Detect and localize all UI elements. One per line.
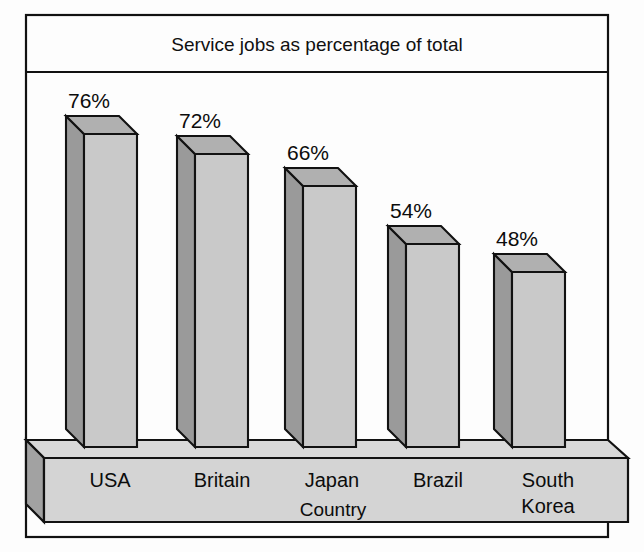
category-label-japan: Japan [305,469,360,491]
category-label-britain: Britain [194,469,251,491]
bar-brazil: 54% [388,199,459,447]
bar-brazil-side [388,226,406,447]
bar-britain-front [195,154,248,447]
service-jobs-bar-chart: Service jobs as percentage of total 76% … [0,0,644,552]
bar-japan-value: 66% [287,141,329,164]
bar-britain-side [177,136,195,447]
chart-title: Service jobs as percentage of total [171,34,463,55]
bar-south-korea-side [494,254,512,447]
bar-britain-value: 72% [179,109,221,132]
bar-britain: 72% [177,109,248,447]
category-label-south-korea: South [522,469,574,491]
x-axis-label: Country [300,499,367,520]
bar-usa: 76% [66,89,137,447]
bar-japan-front [303,186,356,447]
bar-south-korea: 48% [494,227,565,447]
category-label-south-korea-line2: Korea [521,495,575,517]
bar-usa-value: 76% [68,89,110,112]
bar-japan-side [285,168,303,447]
bar-usa-side [66,116,84,447]
bar-brazil-front [406,244,459,447]
chart-page: Service jobs as percentage of total 76% … [0,0,644,552]
bar-usa-front [84,134,137,447]
category-label-usa: USA [89,469,131,491]
bar-japan: 66% [285,141,356,447]
bar-south-korea-value: 48% [496,227,538,250]
category-label-brazil: Brazil [413,469,463,491]
bar-south-korea-front [512,272,565,447]
bar-brazil-value: 54% [390,199,432,222]
